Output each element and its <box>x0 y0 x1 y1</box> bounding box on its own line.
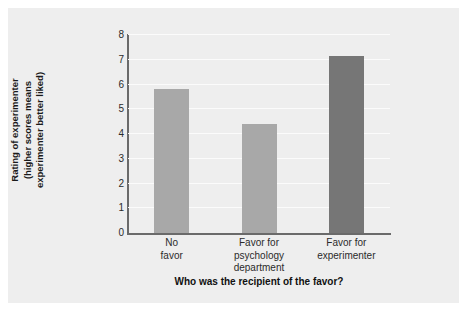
x-axis-tick-label-line: department <box>215 262 302 275</box>
x-axis-tick-label-line: Favor for <box>303 237 390 250</box>
y-axis-tick-label: 4 <box>108 129 124 139</box>
y-axis-tick-label: 6 <box>108 80 124 90</box>
x-axis-tick-label-line: Favor for <box>215 237 302 250</box>
gridline <box>128 34 390 35</box>
x-axis-tick-label-line: favor <box>128 250 215 263</box>
y-axis-title-line-3: experimenter better liked) <box>34 72 47 188</box>
bar <box>154 89 189 233</box>
y-axis-tick-label: 7 <box>108 55 124 65</box>
y-axis-tick-label: 0 <box>108 228 124 238</box>
x-axis-tick-label: Favor forexperimenter <box>303 237 390 262</box>
x-axis-tick-label: Nofavor <box>128 237 215 262</box>
y-axis-title-line-1: Rating of experimenter <box>9 72 22 188</box>
bar-chart-figure: Rating of experimenter (higher scores me… <box>0 0 467 311</box>
y-axis-tick-label: 1 <box>108 203 124 213</box>
y-axis-title: Rating of experimenter (higher scores me… <box>0 25 56 235</box>
y-axis-tick-label: 5 <box>108 104 124 114</box>
x-axis-line <box>127 233 391 235</box>
y-axis-tick-label: 3 <box>108 154 124 164</box>
plot-area <box>128 35 390 233</box>
y-axis-title-line-2: (higher scores means <box>22 72 35 188</box>
x-axis-tick-label-line: No <box>128 237 215 250</box>
y-axis-tick-label: 8 <box>108 30 124 40</box>
x-axis-tick-label-line: psychology <box>215 250 302 263</box>
bar <box>242 124 277 233</box>
y-axis-tick-labels: 012345678 <box>100 0 124 311</box>
x-axis-title: Who was the recipient of the favor? <box>128 276 390 287</box>
x-axis-tick-label-line: experimenter <box>303 250 390 263</box>
y-axis-tick-label: 2 <box>108 179 124 189</box>
bar <box>329 56 364 233</box>
x-axis-tick-label: Favor forpsychologydepartment <box>215 237 302 275</box>
